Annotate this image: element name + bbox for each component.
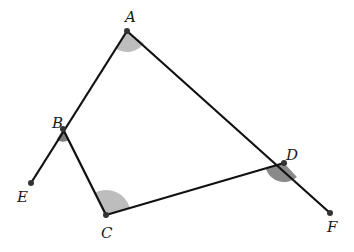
line-a-f bbox=[127, 31, 330, 213]
point-c bbox=[103, 212, 109, 218]
label-e: E bbox=[16, 188, 28, 206]
geometry-diagram: A B C D E F bbox=[0, 0, 354, 252]
label-f: F bbox=[326, 218, 338, 236]
label-a: A bbox=[123, 8, 136, 26]
point-f bbox=[327, 210, 333, 216]
line-c-d bbox=[106, 163, 284, 215]
point-a bbox=[124, 28, 130, 34]
label-d: D bbox=[285, 146, 298, 164]
label-b: B bbox=[51, 114, 63, 132]
point-e bbox=[28, 180, 34, 186]
line-b-c bbox=[63, 129, 106, 215]
label-c: C bbox=[101, 224, 113, 242]
